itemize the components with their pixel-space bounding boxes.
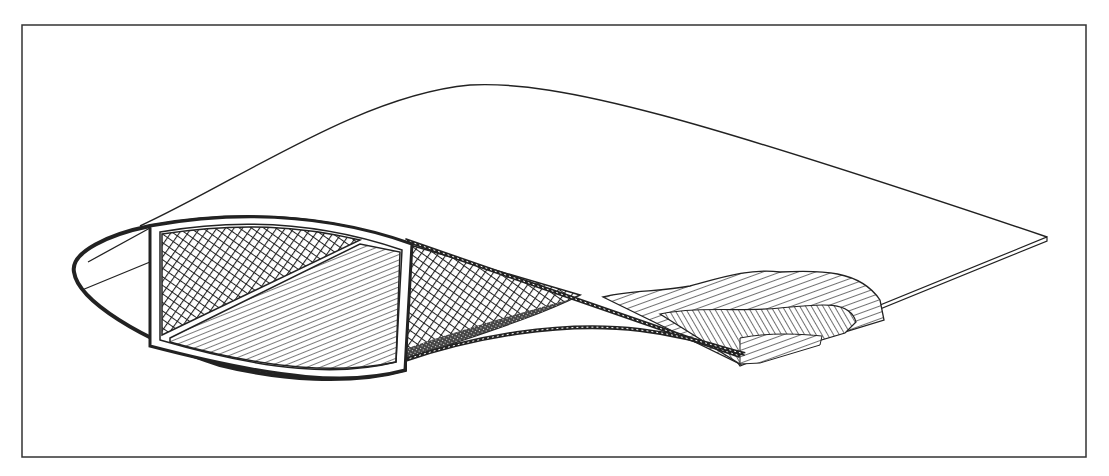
blade-cutaway-figure xyxy=(0,0,1109,476)
upper-planform-outline xyxy=(140,85,1047,237)
trailing-edge-layup-inner xyxy=(740,334,822,364)
